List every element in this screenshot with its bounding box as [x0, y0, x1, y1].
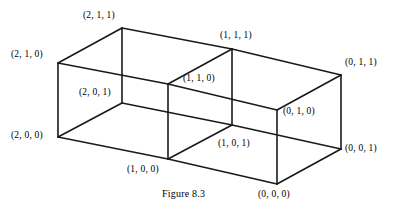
- edge-v210-v110: [58, 63, 168, 84]
- edge-v001-v000: [277, 149, 341, 184]
- edge-v200-v100: [58, 137, 168, 159]
- vertex-label-v000: (0, 0, 0): [258, 189, 290, 200]
- lattice-box-diagram: [0, 0, 393, 217]
- edge-v211-v111: [122, 28, 232, 49]
- figure-caption: Figure 8.3: [162, 188, 205, 200]
- vertex-label-v101: (1, 0, 1): [218, 138, 250, 149]
- vertex-label-v100: (1, 0, 0): [127, 164, 159, 175]
- edge-v110-v010: [168, 84, 277, 110]
- edge-v111-v011: [232, 49, 341, 75]
- vertex-label-v210: (2, 1, 0): [11, 49, 43, 60]
- vertex-label-v211: (2, 1, 1): [83, 10, 115, 21]
- edge-v011-v010: [277, 75, 341, 110]
- edge-v100-v000: [168, 159, 277, 184]
- vertex-label-v201: (2, 0, 1): [79, 87, 111, 98]
- vertex-label-v111: (1, 1, 1): [220, 30, 252, 41]
- figure-page: (2, 1, 1)(2, 1, 0)(2, 0, 1)(2, 0, 0)(1, …: [0, 0, 393, 217]
- edge-v211-v210: [58, 28, 122, 63]
- vertex-label-v200: (2, 0, 0): [11, 130, 43, 141]
- vertex-label-v010: (0, 1, 0): [283, 106, 315, 117]
- edge-v201-v101: [122, 103, 232, 125]
- vertex-label-v110: (1, 1, 0): [183, 73, 215, 84]
- vertex-label-v001: (0, 0, 1): [345, 143, 377, 154]
- edge-v201-v200: [58, 103, 122, 137]
- vertex-label-v011: (0, 1, 1): [345, 57, 377, 68]
